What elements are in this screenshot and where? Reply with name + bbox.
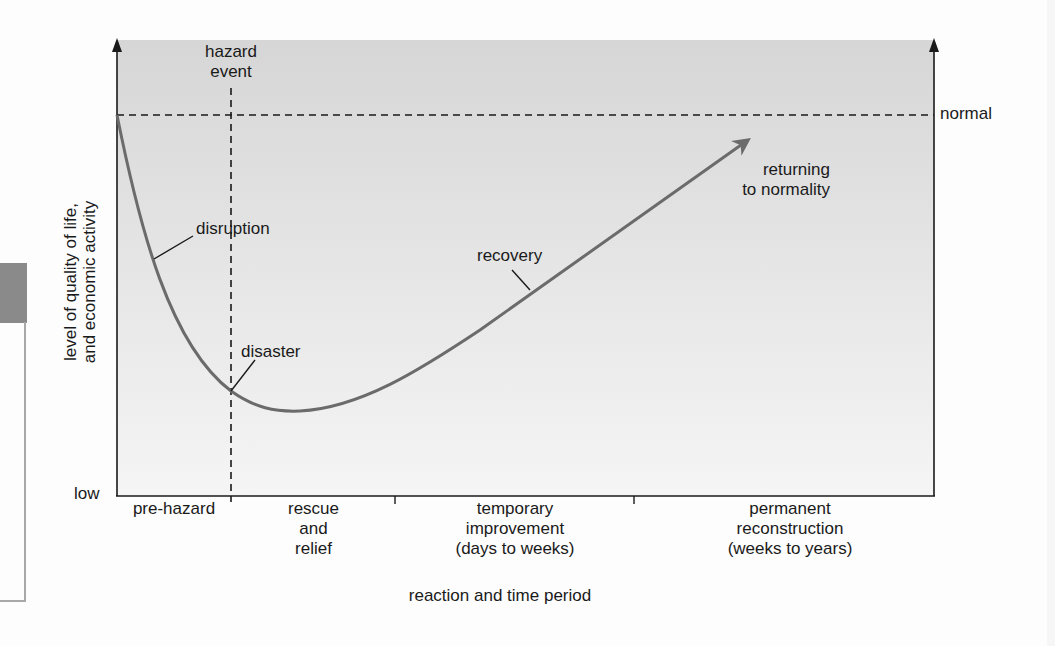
- hazard-event-label: hazard event: [191, 42, 271, 82]
- y-axis-label: level of quality of life, and economic a…: [61, 201, 99, 364]
- plot-area: [117, 40, 934, 496]
- phase-pre-hazard: pre-hazard: [118, 499, 230, 519]
- returning-to-normality-label: returning to normality: [690, 160, 830, 200]
- y-axis-label-line1: level of quality of life,: [61, 201, 80, 364]
- x-axis-label: reaction and time period: [350, 586, 650, 606]
- y-axis-low-label: low: [74, 484, 100, 504]
- disaster-label: disaster: [241, 342, 301, 362]
- phase-temporary-improvement: temporary improvement (days to weeks): [415, 499, 615, 559]
- phase-rescue-and-relief: rescue and relief: [232, 499, 395, 559]
- disruption-label: disruption: [196, 219, 270, 239]
- y-axis-label-line2: and economic activity: [80, 201, 99, 364]
- phase-permanent-reconstruction: permanent reconstruction (weeks to years…: [690, 499, 890, 559]
- y-axis-normal-label: normal: [940, 104, 992, 124]
- recovery-label: recovery: [477, 246, 542, 266]
